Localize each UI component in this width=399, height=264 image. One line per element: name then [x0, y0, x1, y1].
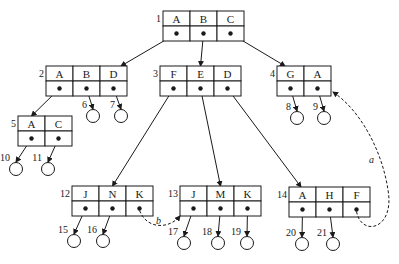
pointer-dot [201, 31, 205, 35]
pointer-dot [225, 86, 229, 90]
pointer-dot [174, 31, 178, 35]
leaf-index: 6 [82, 99, 87, 110]
link-a-label: a [369, 154, 374, 165]
leaf-index: 16 [87, 224, 97, 235]
leaf-circle [87, 110, 100, 123]
tree-node-2: 2ABD [39, 66, 127, 96]
leaf-circle [10, 163, 23, 176]
node-key: B [83, 68, 90, 80]
node-key: M [216, 188, 226, 200]
pointer-dot [245, 206, 249, 210]
pointer-dot [327, 207, 331, 211]
pointer-dot [218, 206, 222, 210]
leaf-circle [212, 237, 225, 250]
pointer-dot [29, 136, 33, 140]
pointer-dot [56, 136, 60, 140]
pointer-dot [354, 207, 358, 211]
node-key: A [299, 189, 307, 201]
node-key: B [200, 13, 207, 25]
pointer-dot [84, 86, 88, 90]
node-key: D [224, 68, 232, 80]
leaf-index: 20 [286, 227, 296, 238]
leaf-20: 20 [286, 227, 309, 251]
pointer-dot [315, 86, 319, 90]
leaf-index: 18 [202, 226, 212, 237]
leaf-circle [296, 238, 309, 251]
tree-node-1: 1ABC [156, 11, 244, 41]
leaf-17: 17 [168, 226, 191, 250]
leaf-index: 21 [317, 227, 327, 238]
tree-node-14: 14AHF [277, 187, 370, 217]
node-index: 5 [11, 118, 16, 129]
pointer-dot [198, 86, 202, 90]
leaf-circle [97, 235, 110, 248]
pointer-dot [83, 206, 87, 210]
leaf-circle [115, 110, 128, 123]
node-index: 12 [60, 188, 70, 199]
pointer-dot [111, 86, 115, 90]
b-tree-diagram: 1ABC2ABD3FED4GA5AC12JNK13JMK14AHF 678910… [0, 0, 399, 264]
tree-node-13: 13JMK [168, 186, 261, 216]
node-key: C [227, 13, 234, 25]
node-index: 13 [168, 188, 178, 199]
leaf-index: 19 [231, 226, 241, 237]
node-index: 2 [39, 68, 44, 79]
leaf-10: 10 [0, 152, 23, 176]
tree-node-5: 5AC [11, 116, 72, 146]
node-key: A [314, 68, 322, 80]
node-key: A [28, 118, 36, 130]
node-key: E [197, 68, 204, 80]
node-index: 4 [270, 68, 275, 79]
pointer-dot [300, 207, 304, 211]
node-key: F [170, 68, 176, 80]
pointer-dot [137, 206, 141, 210]
leaf-circle [291, 112, 304, 125]
leaf-index: 17 [168, 226, 178, 237]
node-index: 1 [156, 13, 161, 24]
node-key: H [326, 189, 334, 201]
leaf-circle [318, 112, 331, 125]
leaf-index: 10 [0, 152, 10, 163]
pointer-dot [228, 31, 232, 35]
leaf-index: 11 [32, 152, 42, 163]
node-key: G [287, 68, 295, 80]
leaf-index: 9 [313, 101, 318, 112]
tree-node-3: 3FED [153, 66, 241, 96]
leaf-circle [178, 237, 191, 250]
edge-3-13 [201, 89, 221, 187]
node-key: N [109, 188, 117, 200]
nodes: 1ABC2ABD3FED4GA5AC12JNK13JMK14AHF [11, 11, 370, 217]
node-key: D [110, 68, 118, 80]
leaf-18: 18 [202, 226, 225, 250]
edge-3-12 [113, 89, 174, 187]
tree-node-4: 4GA [270, 66, 331, 96]
node-index: 3 [153, 68, 158, 79]
link-b-label: b [156, 215, 161, 226]
leaf-index: 15 [58, 224, 68, 235]
node-key: A [173, 13, 181, 25]
leaf-16: 16 [87, 224, 110, 248]
leaf-circle [241, 237, 254, 250]
leaf-21: 21 [317, 227, 340, 251]
node-key: C [55, 118, 62, 130]
leaf-19: 19 [231, 226, 254, 250]
pointer-dot [191, 206, 195, 210]
node-index: 14 [277, 189, 287, 200]
leaf-circle [68, 235, 81, 248]
leaf-circle [327, 238, 340, 251]
leaf-index: 8 [286, 101, 291, 112]
pointer-dot [57, 86, 61, 90]
tree-node-12: 12JNK [60, 186, 153, 216]
node-key: A [56, 68, 64, 80]
pointer-dot [110, 206, 114, 210]
pointer-dot [288, 86, 292, 90]
node-key: J [83, 188, 88, 200]
node-key: J [191, 188, 196, 200]
leaf-circle [42, 163, 55, 176]
node-key: K [136, 188, 144, 200]
node-key: K [244, 188, 252, 200]
node-key: F [353, 189, 359, 201]
leaf-index: 7 [110, 99, 115, 110]
pointer-dot [171, 86, 175, 90]
